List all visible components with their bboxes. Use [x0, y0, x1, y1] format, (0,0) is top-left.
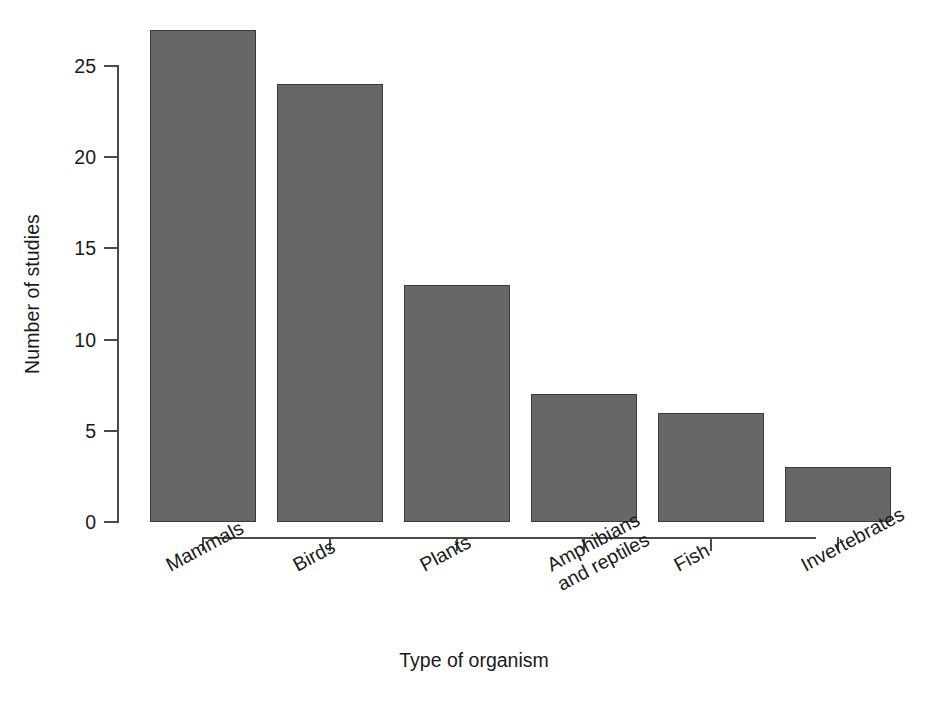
y-axis-title: Number of studies [18, 66, 46, 522]
y-axis-tick-label: 15 [44, 238, 96, 258]
x-axis-title: Type of organism [0, 648, 948, 672]
bar-amphibians-and-reptiles [531, 394, 637, 522]
x-axis-tick-label-line: Birds [289, 535, 339, 576]
x-axis-tick-mark [710, 537, 712, 551]
x-axis-tick-label-line: Fish [670, 539, 713, 577]
bar-fish [658, 413, 764, 522]
y-axis-tick-mark [104, 521, 119, 523]
x-axis-tick-label: Fish [670, 539, 713, 577]
bar-chart-figure: Number of studies 0510152025 MammalsBird… [0, 0, 948, 715]
y-axis-tick-mark [104, 156, 119, 158]
bar-mammals [150, 30, 256, 522]
x-axis-line [202, 537, 816, 539]
y-axis-tick-label: 5 [44, 421, 96, 441]
y-axis-line [117, 66, 119, 523]
bar-birds [277, 84, 383, 522]
y-axis-tick-mark [104, 247, 119, 249]
y-axis-tick-mark [104, 430, 119, 432]
y-axis-tick-mark [104, 339, 119, 341]
y-axis-tick-label: 10 [44, 330, 96, 350]
x-axis-tick-label: Birds [289, 535, 339, 576]
y-axis-tick-label: 20 [44, 147, 96, 167]
y-axis-tick-mark [104, 65, 119, 67]
y-axis-tick-label: 0 [44, 512, 96, 532]
x-axis-tick-label: Mammals [162, 516, 247, 576]
x-axis-tick-label-line: Mammals [162, 516, 247, 576]
bar-plants [404, 285, 510, 522]
y-axis-tick-label: 25 [44, 56, 96, 76]
